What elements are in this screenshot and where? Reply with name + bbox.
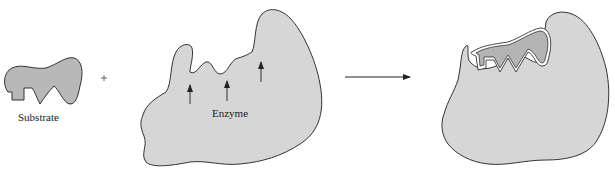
plus-icon [101, 75, 107, 81]
diagram-svg [0, 0, 615, 169]
substrate-label: Substrate [18, 111, 59, 123]
enzyme-shape [141, 10, 322, 166]
enzyme-substrate-diagram: Substrate Enzyme [0, 0, 615, 169]
enzyme-label: Enzyme [212, 107, 248, 119]
substrate-shape [5, 58, 82, 104]
